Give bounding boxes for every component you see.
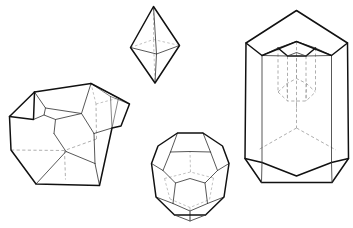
crystal-figure	[0, 0, 353, 228]
canvas-background	[0, 0, 353, 228]
crystal-diagram-canvas	[0, 0, 353, 228]
